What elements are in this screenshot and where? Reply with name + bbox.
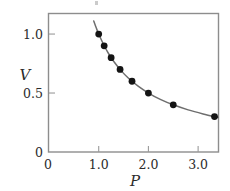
data-point <box>170 101 177 108</box>
data-point <box>145 90 152 97</box>
y-tick-label: 0 <box>35 145 43 160</box>
y-axis-tick-labels: 00.51.0 <box>23 27 43 160</box>
x-tick-label: 1.0 <box>89 157 109 172</box>
x-tick-label: 0 <box>44 157 52 172</box>
data-point <box>95 31 102 38</box>
y-tick-label: 0.5 <box>23 86 43 101</box>
data-point <box>108 54 115 61</box>
y-tick-label: 1.0 <box>23 27 43 42</box>
y-axis-label: V <box>20 66 33 84</box>
pv-scatter-chart: 00.51.0 01.02.03.0 V P <box>0 0 230 191</box>
figure-container: 00.51.0 01.02.03.0 V P <box>0 0 230 191</box>
data-point <box>101 42 108 49</box>
x-tick-label: 3.0 <box>188 157 208 172</box>
x-axis-label: P <box>129 172 141 190</box>
data-point <box>211 113 218 120</box>
x-tick-label: 2.0 <box>138 157 158 172</box>
data-point <box>117 66 124 73</box>
x-axis-tick-labels: 01.02.03.0 <box>44 157 208 172</box>
data-point <box>129 78 136 85</box>
